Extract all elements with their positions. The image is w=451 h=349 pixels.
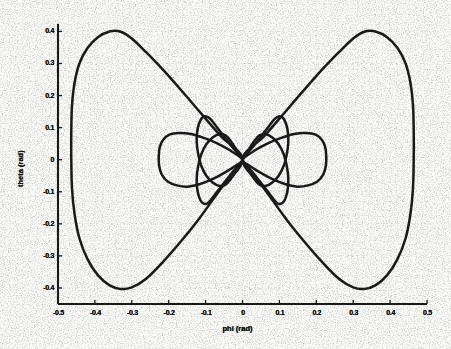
x-axis-title: phi (rad) [223, 324, 253, 333]
y-tick-label: -0.4 [30, 284, 54, 291]
x-tick-label: -0.3 [124, 309, 141, 316]
y-tick-label: 0.2 [30, 92, 54, 99]
y-tick-label: 0.3 [30, 59, 54, 66]
x-tick-label: -0.5 [50, 309, 67, 316]
x-tick-label: 0.3 [345, 309, 362, 316]
y-tick-label: 0.4 [30, 27, 54, 34]
x-tick-label: -0.1 [198, 309, 215, 316]
x-tick-label: 0.4 [382, 309, 399, 316]
x-tick-label: 0.2 [308, 309, 325, 316]
x-tick-label: -0.2 [161, 309, 178, 316]
y-tick-label: -0.1 [30, 188, 54, 195]
plot-canvas [0, 0, 451, 349]
y-tick-label: -0.3 [30, 252, 54, 259]
x-tick-label: 0 [235, 309, 252, 316]
curve-outer-figure-eight-left-lobe [71, 31, 242, 289]
y-tick-label: 0.1 [30, 124, 54, 131]
phase-portrait-figure: -0.5-0.4-0.3-0.2-0.100.10.20.30.40.5 0.4… [0, 0, 451, 349]
y-axis-title: theta (rad) [16, 150, 25, 187]
y-tick-label: -0.2 [30, 220, 54, 227]
y-tick-label: 0 [30, 156, 54, 163]
x-tick-label: 0.1 [271, 309, 288, 316]
x-tick-label: 0.5 [419, 309, 436, 316]
x-tick-label: -0.4 [87, 309, 104, 316]
